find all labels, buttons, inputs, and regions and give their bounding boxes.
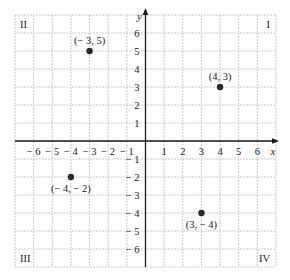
- y-axis-label: y: [136, 10, 142, 22]
- x-axis-label: x: [270, 145, 276, 157]
- x-tick-label: 2: [180, 146, 185, 157]
- x-axis-arrow-icon: [272, 138, 279, 144]
- data-point-label: (− 4, − 2): [51, 183, 91, 195]
- data-point-label: (3, − 4): [186, 219, 218, 231]
- data-point-marker: [217, 84, 223, 90]
- data-points: (− 3, 5)(4, 3)(− 4, − 2)(3, − 4): [51, 35, 232, 231]
- x-tick-label: 1: [162, 146, 167, 157]
- x-tick-label: − 2: [101, 146, 115, 157]
- x-tick-label: − 3: [83, 146, 97, 157]
- x-tick-label: 3: [199, 146, 204, 157]
- data-point-marker: [198, 210, 204, 216]
- y-tick-label: 3: [134, 82, 139, 93]
- quadrant-label: II: [20, 19, 27, 30]
- x-tick-label: − 5: [45, 146, 59, 157]
- y-tick-label: 5: [134, 46, 139, 57]
- coordinate-plane: xy − 6− 5− 4− 3− 2− 1123456− 6− 5− 4− 3−…: [0, 0, 290, 280]
- x-tick-label: 5: [236, 146, 241, 157]
- x-tick-label: − 6: [27, 146, 41, 157]
- quadrant-label: IV: [259, 253, 270, 264]
- y-tick-label: − 3: [126, 190, 140, 201]
- data-point-label: (− 3, 5): [74, 35, 106, 47]
- y-tick-label: 1: [134, 118, 139, 129]
- y-tick-label: − 1: [126, 154, 140, 165]
- x-tick-label: − 4: [64, 146, 79, 157]
- quadrant-label: III: [20, 253, 31, 264]
- quadrant-label: I: [267, 19, 271, 30]
- x-tick-label: 6: [255, 146, 260, 157]
- y-tick-label: − 4: [126, 208, 141, 219]
- y-tick-label: 2: [134, 100, 139, 111]
- y-tick-label: − 2: [126, 172, 140, 183]
- data-point-marker: [68, 174, 74, 180]
- y-tick-label: 4: [134, 64, 140, 75]
- data-point-label: (4, 3): [209, 71, 232, 83]
- x-tick-label: 4: [217, 146, 223, 157]
- y-tick-label: 6: [134, 28, 139, 39]
- axes: xy: [15, 8, 279, 267]
- y-tick-label: − 5: [126, 226, 140, 237]
- data-point-marker: [86, 48, 92, 54]
- y-axis-arrow-icon: [143, 8, 149, 15]
- y-tick-label: − 6: [126, 244, 140, 255]
